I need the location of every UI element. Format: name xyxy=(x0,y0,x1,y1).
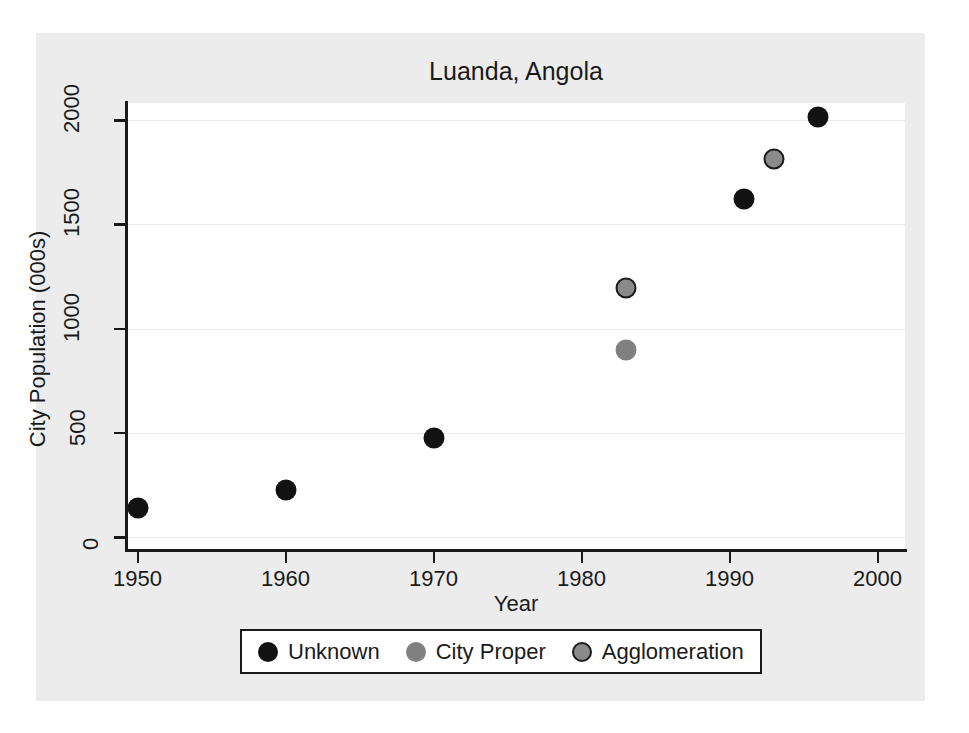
y-tick-label: 0 xyxy=(78,538,104,550)
gridline xyxy=(127,537,905,538)
y-tick-mark xyxy=(114,536,126,539)
y-tick-mark xyxy=(114,432,126,435)
chart-title: Luanda, Angola xyxy=(127,57,905,86)
y-tick-label: 1000 xyxy=(60,293,86,342)
gridline xyxy=(127,120,905,121)
gridline xyxy=(127,329,905,330)
x-tick-mark xyxy=(877,551,880,563)
x-tick-mark xyxy=(137,551,140,563)
y-tick-label: 500 xyxy=(66,409,92,446)
data-point xyxy=(808,106,829,127)
x-tick-label: 1970 xyxy=(394,566,474,592)
scatter-chart: Luanda, Angola 0500100015002000 19501960… xyxy=(0,0,969,733)
plot-area xyxy=(127,103,905,549)
y-axis-title: City Population (000s) xyxy=(25,129,51,549)
legend-entry[interactable]: Unknown xyxy=(258,639,380,665)
x-tick-label: 1990 xyxy=(690,566,770,592)
legend-entry[interactable]: City Proper xyxy=(406,639,546,665)
x-tick-label: 1950 xyxy=(98,566,178,592)
legend-marker-icon xyxy=(258,642,278,662)
legend-marker-icon xyxy=(406,642,426,662)
x-tick-mark xyxy=(581,551,584,563)
data-point xyxy=(127,497,148,518)
chart-legend: UnknownCity ProperAgglomeration xyxy=(240,629,762,674)
x-axis-line xyxy=(125,549,907,552)
y-tick-label: 1500 xyxy=(60,188,86,237)
x-tick-label: 1980 xyxy=(542,566,622,592)
legend-entry[interactable]: Agglomeration xyxy=(572,639,744,665)
data-point xyxy=(615,340,636,361)
data-point xyxy=(423,427,444,448)
x-tick-label: 1960 xyxy=(246,566,326,592)
x-tick-mark xyxy=(285,551,288,563)
x-tick-mark xyxy=(729,551,732,563)
gridline xyxy=(127,433,905,434)
y-tick-mark xyxy=(114,223,126,226)
legend-marker-icon xyxy=(572,642,592,662)
y-tick-mark xyxy=(114,328,126,331)
data-point xyxy=(734,189,755,210)
legend-label: Agglomeration xyxy=(602,639,744,665)
data-point xyxy=(615,277,636,298)
x-tick-mark xyxy=(433,551,436,563)
data-point xyxy=(275,480,296,501)
data-point xyxy=(763,148,784,169)
x-axis-title: Year xyxy=(127,591,905,617)
y-tick-label: 2000 xyxy=(60,84,86,133)
gridline xyxy=(127,224,905,225)
y-axis-line xyxy=(125,101,128,551)
legend-label: City Proper xyxy=(436,639,546,665)
y-tick-mark xyxy=(114,119,126,122)
legend-label: Unknown xyxy=(288,639,380,665)
x-tick-label: 2000 xyxy=(838,566,918,592)
